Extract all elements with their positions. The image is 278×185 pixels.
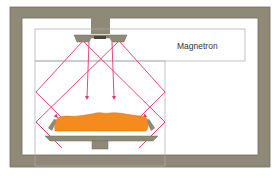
antenna-tip xyxy=(94,36,106,39)
tray-support xyxy=(92,141,108,149)
arrow-head xyxy=(112,96,116,100)
tray xyxy=(45,136,158,141)
diagram-canvas: Magnetron xyxy=(0,0,278,185)
ray-diag-3 xyxy=(120,42,165,122)
ray-diag-1 xyxy=(36,42,82,122)
ray-diag-2 xyxy=(36,42,118,148)
ray-diag-4 xyxy=(84,42,165,148)
housing-stem xyxy=(91,17,110,34)
magnetron-label: Magnetron xyxy=(177,41,218,51)
arrow-head xyxy=(54,114,58,118)
arrow-head xyxy=(85,96,89,100)
microwave-rays xyxy=(36,42,165,148)
microwave-diagram: Magnetron xyxy=(0,0,278,185)
ray-lower-left xyxy=(36,122,50,136)
food xyxy=(55,113,148,131)
outer-housing xyxy=(10,7,270,167)
